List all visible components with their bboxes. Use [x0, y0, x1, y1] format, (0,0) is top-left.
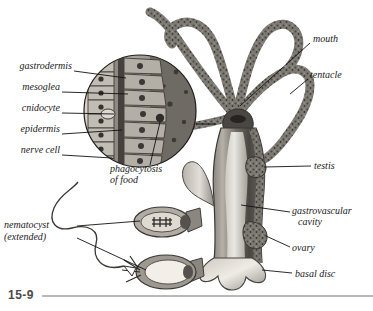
- leader-testis: [264, 166, 311, 167]
- label-mesoglea: mesoglea: [4, 81, 60, 92]
- label-phagocytosis-line2: of food: [110, 174, 138, 185]
- leader-ovary: [266, 236, 290, 247]
- label-mouth: mouth: [313, 33, 338, 44]
- figure-artwork: [0, 0, 373, 311]
- label-gastrovascular-line2: cavity: [298, 216, 322, 227]
- inset-phagocytosis-vacuole: [156, 114, 164, 122]
- nematocyst-undischarged: [134, 207, 202, 237]
- basal-disc: [200, 258, 266, 290]
- nematocyst-diagrams: [52, 182, 204, 289]
- label-testis: testis: [314, 160, 335, 171]
- body-wall-inset: [84, 55, 196, 168]
- bud: [183, 162, 214, 206]
- figure-rule: [42, 295, 373, 297]
- leader-nerve-cell: [62, 155, 112, 158]
- leader-basal-disc: [262, 270, 292, 273]
- figure-number: 15-9: [8, 288, 34, 302]
- label-gastrodermis: gastrodermis: [4, 60, 72, 71]
- label-gastrovascular-line1: gastrovascular: [292, 205, 352, 216]
- label-tentacle: tentacle: [310, 69, 342, 80]
- label-nerve-cell: nerve cell: [4, 144, 60, 155]
- leader-nematocyst-2: [77, 238, 146, 270]
- ovary: [243, 222, 267, 249]
- inset-mesoglea: [118, 55, 124, 167]
- label-cnidocyte: cnidocyte: [4, 102, 60, 113]
- label-phagocytosis-line1: phagocytosis: [110, 163, 162, 174]
- label-epidermis: epidermis: [4, 123, 60, 134]
- nematocyst-discharged: [122, 255, 204, 289]
- label-ovary: ovary: [292, 242, 315, 253]
- mouth-opening: [230, 115, 246, 123]
- figure-hydra-anatomy: gastrodermis mesoglea cnidocyte epidermi…: [0, 0, 373, 311]
- leader-nematocyst-1: [77, 221, 140, 226]
- label-nematocyst-line1: nematocyst: [4, 219, 49, 230]
- label-nematocyst-line2: (extended): [4, 231, 46, 242]
- label-basal-disc: basal disc: [295, 268, 335, 279]
- testis: [246, 157, 266, 178]
